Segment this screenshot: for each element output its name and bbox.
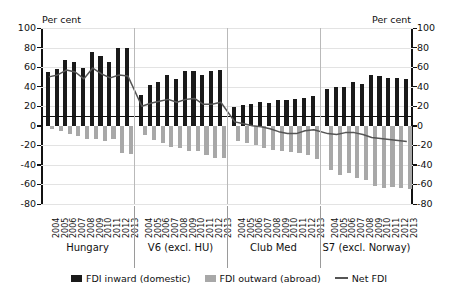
y-axis-right-unit-label: Per cent [372, 14, 411, 25]
y-tick-label-left: 80 [10, 43, 36, 53]
y-tick-label-right: 40 [417, 82, 443, 92]
y-tick-label-right: -80 [417, 199, 443, 209]
x-axis-year-label: 2008 [273, 218, 282, 238]
group-separator [320, 28, 321, 204]
y-tick-label-right: 0 [417, 121, 443, 131]
legend-color-swatch-icon [205, 275, 216, 282]
gridline [41, 204, 413, 205]
y-tick-label-right: -60 [417, 179, 443, 189]
y-tick-label-right: 60 [417, 62, 443, 72]
group-separator [134, 28, 135, 204]
y-tick-left [37, 28, 41, 29]
group-name-v6-excl-hu: V6 (excl. HU) [134, 242, 227, 253]
y-tick-label-left: 60 [10, 62, 36, 72]
legend-line-swatch-icon [335, 277, 348, 279]
legend-label: FDI outward (abroad) [220, 273, 321, 284]
y-tick-label-left: 100 [10, 23, 36, 33]
legend-label: FDI inward (domestic) [86, 273, 191, 284]
legend-item[interactable]: Net FDI [335, 273, 387, 284]
legend-color-swatch-icon [71, 275, 82, 282]
x-axis-year-label: 2012 [308, 218, 317, 238]
group-label-divider [134, 206, 135, 268]
x-axis-year-label: 2011 [113, 218, 122, 238]
y-tick-label-left: -20 [10, 140, 36, 150]
x-axis-year-label: 2013 [131, 218, 140, 238]
x-axis-year-label: 2008 [180, 218, 189, 238]
y-axis-left-unit-label: Per cent [42, 14, 81, 25]
fdi-chart: Per cent Per cent 1001008080606040402020… [0, 0, 458, 290]
plot-area: 100100808060604040202000-20-20-40-40-60-… [41, 28, 413, 204]
y-tick-label-right: 100 [417, 23, 443, 33]
group-name-s7-excl-norway: S7 (excl. Norway) [320, 242, 413, 253]
y-tick-label-left: 40 [10, 82, 36, 92]
x-axis-year-label: 2011 [299, 218, 308, 238]
chart-legend: FDI inward (domestic)FDI outward (abroad… [0, 268, 458, 288]
x-axis-year-label: 2007 [357, 218, 366, 238]
x-axis-year-label: 2004 [238, 218, 247, 238]
x-axis-year-label: 2012 [122, 218, 131, 238]
group-name-hungary: Hungary [41, 242, 134, 253]
y-tick-left [37, 106, 41, 107]
legend-label: Net FDI [352, 273, 387, 284]
x-axis-year-label: 2007 [78, 218, 87, 238]
legend-item[interactable]: FDI inward (domestic) [71, 273, 191, 284]
y-tick-label-right: 80 [417, 43, 443, 53]
y-tick-label-left: -60 [10, 179, 36, 189]
group-separator [227, 28, 228, 204]
x-axis-year-label: 2004 [145, 218, 154, 238]
y-tick-label-left: 0 [10, 121, 36, 131]
y-tick-label-right: 20 [417, 101, 443, 111]
x-axis-year-label: 2012 [401, 218, 410, 238]
x-axis-year-label: 2013 [410, 218, 419, 238]
x-axis-year-label: 2011 [206, 218, 215, 238]
group-label-divider [320, 206, 321, 268]
x-axis-year-label: 2008 [366, 218, 375, 238]
y-tick-left [37, 164, 41, 165]
y-tick-label-left: 20 [10, 101, 36, 111]
x-axis-year-label: 2013 [317, 218, 326, 238]
x-axis-year-label: 2011 [392, 218, 401, 238]
x-axis-year-label: 2004 [52, 218, 61, 238]
y-tick-left [37, 204, 41, 205]
y-tick-left [37, 125, 41, 126]
group-name-club-med: Club Med [227, 242, 320, 253]
y-tick-left [37, 145, 41, 146]
group-name-band: HungaryV6 (excl. HU)Club MedS7 (excl. No… [41, 240, 413, 268]
x-axis-year-label: 2012 [215, 218, 224, 238]
y-tick-left [37, 184, 41, 185]
y-tick-label-right: -20 [417, 140, 443, 150]
x-axis-year-label: 2004 [331, 218, 340, 238]
x-axis-year-label: 2013 [224, 218, 233, 238]
y-tick-label-right: -40 [417, 160, 443, 170]
x-axis-year-label: 2008 [87, 218, 96, 238]
y-tick-label-left: -40 [10, 160, 36, 170]
legend-item[interactable]: FDI outward (abroad) [205, 273, 321, 284]
x-axis-year-label: 2007 [171, 218, 180, 238]
x-axis-year-label: 2007 [264, 218, 273, 238]
y-tick-left [37, 67, 41, 68]
y-tick-label-left: -80 [10, 199, 36, 209]
y-tick-left [37, 86, 41, 87]
y-tick-left [37, 47, 41, 48]
group-label-divider [227, 206, 228, 268]
